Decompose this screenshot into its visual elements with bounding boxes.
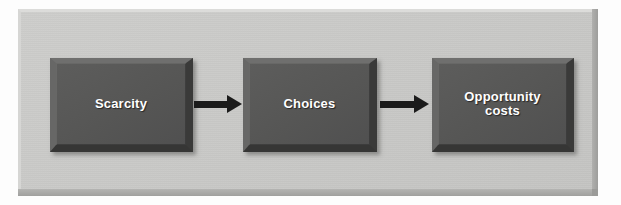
node-scarcity-face: Scarcity [56, 63, 186, 145]
panel-bevel-right [592, 9, 598, 196]
panel-bevel-bottom [18, 189, 598, 196]
arrow-scarcity-to-choices [194, 97, 242, 111]
node-scarcity[interactable]: Scarcity [50, 58, 193, 152]
node-opportunity-costs[interactable]: Opportunity costs [432, 58, 574, 152]
panel-bevel-corner [592, 189, 598, 196]
arrow-head-icon [414, 95, 429, 113]
node-opportunity-costs-face: Opportunity costs [438, 63, 567, 145]
diagram-canvas: Scarcity Choices Opportunity costs [0, 0, 621, 205]
node-choices-face: Choices [249, 63, 370, 145]
node-scarcity-label: Scarcity [95, 97, 147, 111]
node-choices[interactable]: Choices [243, 58, 377, 152]
arrow-shaft [194, 101, 227, 108]
arrow-head-icon [227, 95, 242, 113]
arrow-shaft [380, 101, 414, 108]
arrow-choices-to-opportunity-costs [380, 97, 429, 111]
node-choices-label: Choices [284, 97, 336, 111]
node-opportunity-costs-label: Opportunity costs [464, 90, 541, 118]
